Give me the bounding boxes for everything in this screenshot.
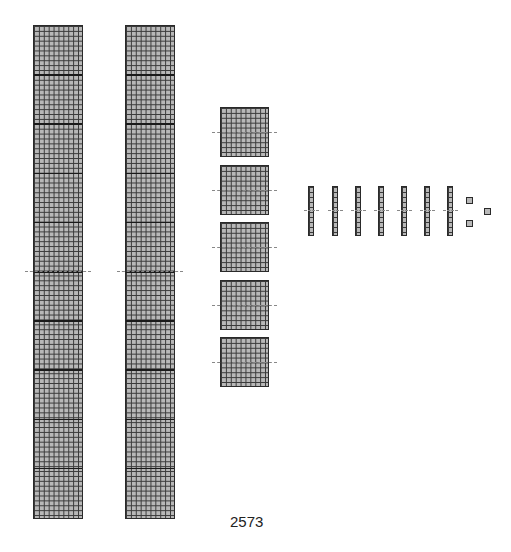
- hundred-separator: [34, 419, 82, 421]
- hundred-separator: [126, 123, 174, 125]
- hundred-separator: [126, 173, 174, 175]
- ten-rod: [447, 186, 453, 236]
- hundred-separator: [126, 419, 174, 421]
- dashed-divider-line: [351, 210, 366, 211]
- dashed-divider-line: [212, 190, 277, 191]
- dashed-divider-line: [304, 210, 319, 211]
- ten-rod: [401, 186, 407, 236]
- dashed-divider-line: [212, 247, 277, 248]
- dashed-divider-line: [212, 362, 277, 363]
- hundred-separator: [126, 369, 174, 371]
- hundred-separator: [34, 468, 82, 470]
- hundred-separator: [34, 369, 82, 371]
- dashed-divider-line: [328, 210, 343, 211]
- dashed-divider-line: [443, 210, 458, 211]
- dashed-divider-line: [212, 132, 277, 133]
- hundred-separator: [34, 222, 82, 224]
- thousand-block: [125, 25, 175, 519]
- dashed-divider-line: [397, 210, 412, 211]
- number-label: 2573: [230, 513, 263, 530]
- ten-rod: [308, 186, 314, 236]
- hundred-separator: [34, 123, 82, 125]
- unit-cube: [466, 197, 473, 204]
- ten-rod: [332, 186, 338, 236]
- dashed-divider-line: [25, 271, 91, 272]
- hundred-separator: [34, 173, 82, 175]
- hundred-separator: [126, 74, 174, 76]
- ten-rod: [424, 186, 430, 236]
- ten-rod: [378, 186, 384, 236]
- hundred-separator: [34, 320, 82, 322]
- unit-cube: [466, 220, 473, 227]
- ten-rod: [355, 186, 361, 236]
- hundred-separator: [126, 468, 174, 470]
- dashed-divider-line: [420, 210, 435, 211]
- unit-cube: [484, 208, 491, 215]
- thousand-block: [33, 25, 83, 519]
- hundred-separator: [126, 320, 174, 322]
- dashed-divider-line: [212, 305, 277, 306]
- dashed-divider-line: [117, 271, 183, 272]
- hundred-separator: [126, 222, 174, 224]
- dashed-divider-line: [374, 210, 389, 211]
- hundred-separator: [34, 74, 82, 76]
